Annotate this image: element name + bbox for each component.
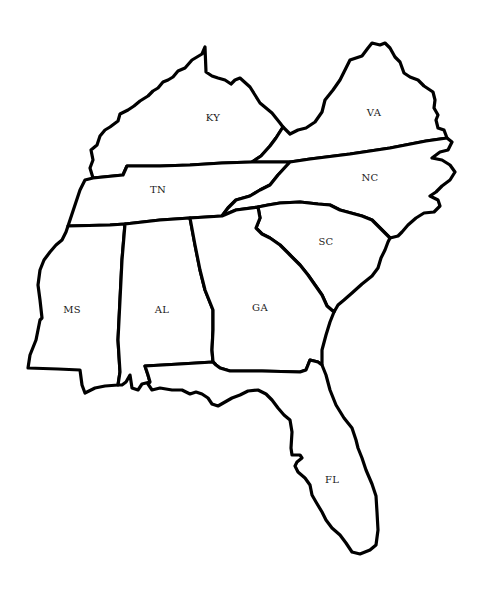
state-label-ga: GA (252, 302, 268, 313)
states-layer (28, 43, 455, 554)
state-label-sc: SC (318, 236, 333, 247)
map-container: KYVATNNCSCMSALGAFL (0, 0, 485, 598)
state-label-va: VA (366, 107, 382, 118)
state-label-tn: TN (150, 184, 166, 195)
state-label-ms: MS (63, 304, 81, 315)
southeast-us-map: KYVATNNCSCMSALGAFL (0, 0, 485, 598)
state-ky[interactable] (90, 47, 283, 178)
state-label-ky: KY (206, 112, 221, 123)
state-label-fl: FL (325, 474, 339, 485)
state-fl[interactable] (145, 360, 378, 554)
state-label-nc: NC (361, 172, 378, 183)
state-label-al: AL (154, 304, 170, 315)
